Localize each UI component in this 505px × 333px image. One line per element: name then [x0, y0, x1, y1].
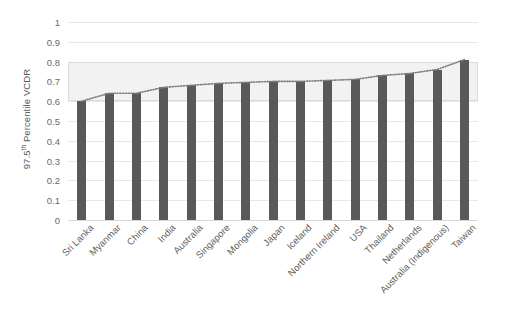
- y-tick-label: 0.1: [47, 195, 60, 206]
- y-tick-label: 0: [55, 215, 60, 226]
- y-axis-tick-labels: 10.90.80.70.60.50.40.30.20.10: [30, 0, 64, 238]
- y-tick-label: 0.8: [47, 56, 60, 67]
- x-axis-label: China: [125, 222, 150, 247]
- y-tick-label: 0.5: [47, 116, 60, 127]
- y-tick-label: 0.2: [47, 175, 60, 186]
- x-axis-label: Northern Ireland: [285, 222, 341, 278]
- trend-line: [68, 22, 478, 220]
- x-axis-label: Japan: [261, 222, 287, 248]
- plot-area: [68, 22, 478, 220]
- y-axis-title-superscript: th: [20, 145, 27, 151]
- y-tick-label: 0.3: [47, 155, 60, 166]
- y-tick-label: 1: [55, 17, 60, 28]
- y-tick-label: 0.9: [47, 36, 60, 47]
- x-axis-label: India: [155, 222, 177, 244]
- x-axis-category-labels: Sri LankaMyanmarChinaIndiaAustraliaSinga…: [68, 222, 478, 327]
- x-axis-label: USA: [347, 222, 369, 244]
- y-tick-label: 0.4: [47, 135, 60, 146]
- x-axis-label: Taiwan: [449, 222, 478, 251]
- gridline: [68, 220, 478, 221]
- chart-container: 97.5th Percentile VCDR 10.90.80.70.60.50…: [0, 0, 505, 333]
- trend-polyline: [82, 60, 465, 102]
- y-tick-label: 0.6: [47, 96, 60, 107]
- y-tick-label: 0.7: [47, 76, 60, 87]
